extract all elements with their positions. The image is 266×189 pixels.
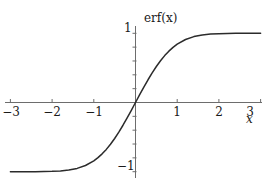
x-tick-label-1: 1	[173, 106, 181, 118]
x-tick-label-2: 2	[215, 106, 223, 118]
x-tick-label-neg1: −1	[85, 106, 103, 118]
x-tick-label-3: 3	[246, 106, 254, 118]
y-tick-label-1: 1	[124, 22, 132, 34]
y-tick-label-neg1: −1	[117, 160, 135, 172]
curve-label: erf(x)	[144, 12, 177, 24]
x-tick-label-neg3: −3	[2, 106, 20, 118]
x-tick-label-neg2: −2	[43, 106, 61, 118]
